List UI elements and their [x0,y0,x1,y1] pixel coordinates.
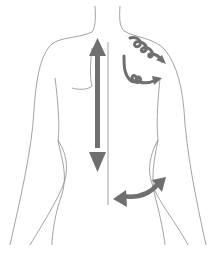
curved-double-arrow [113,177,166,207]
circular-arrow-lower [124,56,162,85]
vertical-double-arrow [89,38,106,172]
back-massage-diagram [0,0,217,256]
torso-illustration [0,0,217,256]
circular-arrow-upper [130,37,166,64]
body-outline [10,6,206,245]
